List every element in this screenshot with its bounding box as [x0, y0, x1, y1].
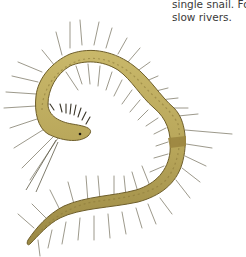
worm-illustration — [0, 0, 246, 257]
bristles — [4, 20, 232, 256]
eye — [79, 133, 82, 136]
body-band — [168, 136, 186, 148]
worm-body — [27, 50, 185, 244]
